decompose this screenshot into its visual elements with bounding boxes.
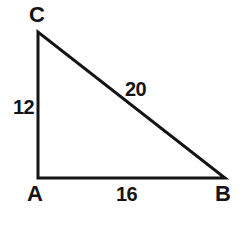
side-label-vertical-leg: 12 bbox=[13, 97, 34, 117]
side-label-horizontal-leg: 16 bbox=[116, 184, 137, 204]
vertex-label-a: A bbox=[27, 183, 43, 205]
vertex-label-c: C bbox=[29, 4, 45, 26]
vertex-label-b: B bbox=[215, 183, 231, 205]
triangle-outline bbox=[38, 32, 225, 178]
triangle-diagram: C A B 12 16 20 bbox=[0, 0, 250, 234]
side-label-hypotenuse: 20 bbox=[125, 79, 146, 99]
